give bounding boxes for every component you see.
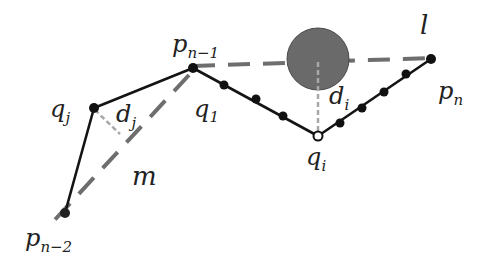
- node-p-n: [426, 54, 436, 64]
- node-intermediate: [380, 88, 389, 97]
- node-intermediate: [252, 95, 261, 104]
- node-intermediate: [358, 104, 367, 113]
- node-p-n-minus-1: [188, 63, 198, 73]
- label-p-n-minus-1: pn−1: [172, 30, 219, 62]
- node-q-j: [89, 103, 99, 113]
- node-intermediate: [336, 119, 345, 128]
- diagram-canvas: pn−1 pn pn−2 qj q1 qi dj di l m: [0, 0, 494, 268]
- node-intermediate: [279, 112, 288, 121]
- label-p-n: pn: [438, 77, 463, 109]
- label-q-1: q1: [194, 95, 219, 126]
- node-q-i: [314, 132, 323, 141]
- label-q-j: qj: [50, 95, 70, 127]
- label-q-i: qi: [306, 143, 326, 175]
- label-m: m: [132, 161, 157, 191]
- node-q-1: [220, 81, 229, 90]
- node-intermediate: [402, 70, 411, 79]
- label-p-n-minus-2: pn−2: [25, 224, 72, 256]
- label-l: l: [420, 10, 428, 40]
- label-d-j: dj: [116, 100, 136, 132]
- trajectory-polyline: [65, 59, 431, 213]
- node-p-n-minus-2: [60, 208, 70, 218]
- label-d-i: di: [329, 82, 349, 114]
